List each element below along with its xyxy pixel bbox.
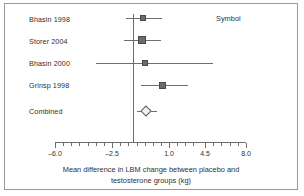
marker-row-2	[142, 60, 148, 66]
x-tick-minor-1	[71, 143, 72, 146]
marker-row-1	[138, 36, 146, 44]
study-label-row-2: Bhasin 2000	[29, 59, 70, 68]
x-tick-minor-5	[104, 143, 105, 146]
x-tick-minor-9	[145, 143, 146, 146]
study-label-row-1: Storer 2004	[29, 37, 68, 46]
x-tick-label-3: 4.5	[189, 150, 221, 157]
x-axis-line	[55, 142, 246, 143]
x-tick-major-0	[55, 143, 56, 148]
x-axis-caption-line-1: Mean difference in LBM change between pl…	[36, 164, 266, 175]
study-label-row-3: Grinsp 1998	[29, 81, 69, 90]
x-tick-minor-4	[96, 143, 97, 146]
x-tick-major-2	[169, 143, 170, 148]
reference-line	[133, 14, 134, 142]
x-tick-minor-7	[128, 143, 129, 146]
ci-line-row-2	[96, 63, 213, 64]
x-axis-caption-line-2: testosterone groups (kg)	[36, 175, 266, 186]
legend-title: Symbol	[216, 14, 241, 23]
x-tick-label-2: 1.0	[153, 150, 185, 157]
marker-row-3	[159, 82, 166, 89]
study-label-row-4: Combined	[29, 107, 63, 116]
x-tick-minor-14	[193, 143, 194, 146]
x-tick-minor-12	[177, 143, 178, 146]
x-tick-minor-17	[230, 143, 231, 146]
x-tick-major-3	[205, 143, 206, 148]
marker-row-0	[140, 15, 146, 21]
study-label-row-0: Bhasin 1998	[29, 15, 70, 24]
x-tick-minor-10	[153, 143, 154, 146]
x-tick-label-4: 8.0	[230, 150, 262, 157]
x-tick-minor-6	[120, 143, 121, 146]
forest-plot: Bhasin 1998 Storer 2004 Bhasin 2000 Grin…	[0, 0, 304, 196]
x-tick-label-0: –6.0	[39, 150, 71, 157]
x-tick-minor-2	[79, 143, 80, 146]
x-tick-label-1: –2.5	[96, 150, 128, 157]
x-tick-minor-0	[63, 143, 64, 146]
x-tick-minor-16	[221, 143, 222, 146]
x-tick-major-4	[246, 143, 247, 148]
x-axis-caption: Mean difference in LBM change between pl…	[36, 164, 266, 186]
x-tick-major-1	[112, 143, 113, 148]
x-tick-minor-15	[213, 143, 214, 146]
x-tick-minor-18	[238, 143, 239, 146]
marker-combined-diamond	[140, 105, 151, 116]
x-tick-minor-11	[161, 143, 162, 146]
x-tick-minor-13	[185, 143, 186, 146]
x-tick-minor-3	[88, 143, 89, 146]
x-tick-minor-8	[137, 143, 138, 146]
